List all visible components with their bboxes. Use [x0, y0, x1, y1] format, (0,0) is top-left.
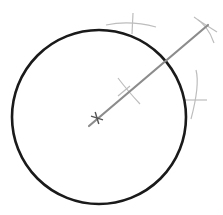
geometry-diagram — [0, 0, 223, 215]
